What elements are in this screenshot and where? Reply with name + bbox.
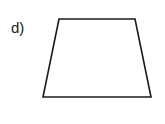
trapezoid-diagram bbox=[0, 0, 165, 124]
trapezoid-shape bbox=[43, 19, 151, 97]
